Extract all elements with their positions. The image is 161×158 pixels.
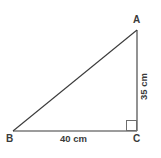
- vertex-label-a: A: [133, 15, 140, 25]
- right-angle-marker-icon: [127, 121, 137, 131]
- base-measurement-label: 40 cm: [60, 134, 87, 144]
- hypotenuse-line: [13, 30, 137, 131]
- right-triangle-figure: A B C 40 cm 35 cm: [0, 0, 161, 158]
- height-measurement-label: 35 cm: [139, 73, 149, 100]
- vertex-label-b: B: [6, 134, 13, 144]
- vertex-label-c: C: [133, 134, 140, 144]
